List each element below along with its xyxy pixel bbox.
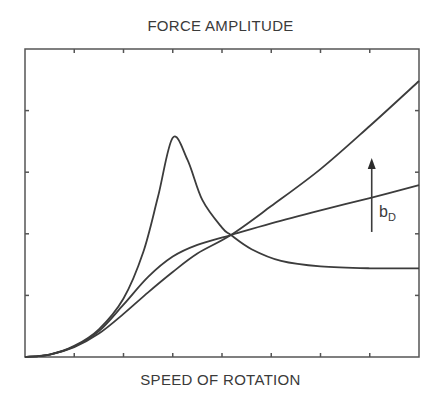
damping-arrow xyxy=(368,158,376,232)
curve-low-damping xyxy=(25,136,419,357)
damping-label-subscript: D xyxy=(388,211,396,223)
curve-medium-damping xyxy=(25,185,419,357)
arrow-up-icon xyxy=(368,158,376,169)
damping-label-main: b xyxy=(379,203,388,220)
curve-high-damping xyxy=(25,81,419,357)
plot-frame xyxy=(25,49,419,357)
x-axis-label: SPEED OF ROTATION xyxy=(0,371,441,388)
plot-area xyxy=(0,0,441,406)
data-curves xyxy=(25,81,419,357)
axis-ticks xyxy=(25,49,419,357)
damping-label: bD xyxy=(379,203,396,223)
